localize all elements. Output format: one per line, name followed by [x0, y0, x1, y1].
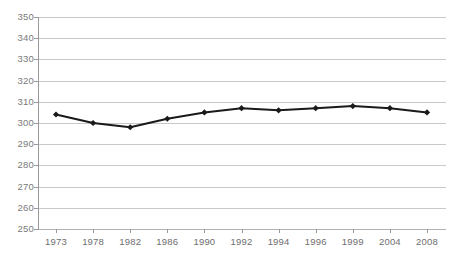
y-axis-tick-mark — [34, 81, 38, 82]
x-axis-tick-mark — [93, 229, 94, 233]
data-point-marker — [127, 124, 133, 130]
x-axis-tick-mark — [242, 229, 243, 233]
y-axis-tick-mark — [34, 144, 38, 145]
y-axis-tick-mark — [34, 17, 38, 18]
data-point-marker — [350, 103, 356, 109]
data-point-marker — [424, 109, 430, 115]
y-axis-tick-mark — [34, 165, 38, 166]
y-axis-tick-label: 330 — [0, 54, 34, 64]
y-axis-tick-mark — [34, 229, 38, 230]
x-axis-tick-mark — [167, 229, 168, 233]
data-point-marker — [164, 116, 170, 122]
data-point-marker — [387, 105, 393, 111]
y-axis-tick-mark — [34, 38, 38, 39]
x-axis-tick-mark — [130, 229, 131, 233]
x-axis-tick-mark — [279, 229, 280, 233]
y-axis-tick-label: 250 — [0, 224, 34, 234]
x-axis-tick-mark — [353, 229, 354, 233]
y-axis-tick-label: 260 — [0, 203, 34, 213]
data-point-marker — [53, 111, 59, 117]
data-point-marker — [90, 120, 96, 126]
y-axis-tick-mark — [34, 208, 38, 209]
y-axis-tick-label: 320 — [0, 76, 34, 86]
y-axis-tick-mark — [34, 123, 38, 124]
line-chart: 3503403303203103002902802702602501973197… — [0, 0, 455, 265]
y-axis-tick-mark — [34, 102, 38, 103]
y-axis-tick-label: 350 — [0, 12, 34, 22]
y-axis-tick-label: 270 — [0, 182, 34, 192]
y-axis-tick-label: 290 — [0, 139, 34, 149]
y-axis-tick-label: 280 — [0, 160, 34, 170]
y-axis-tick-mark — [34, 59, 38, 60]
data-point-marker — [238, 105, 244, 111]
x-axis-tick-mark — [427, 229, 428, 233]
x-axis-tick-mark — [316, 229, 317, 233]
data-point-marker — [276, 107, 282, 113]
x-axis-tick-mark — [204, 229, 205, 233]
data-point-marker — [313, 105, 319, 111]
series-layer — [0, 0, 455, 265]
data-point-marker — [201, 109, 207, 115]
y-axis-tick-label: 340 — [0, 33, 34, 43]
x-axis-tick-label: 2008 — [397, 236, 455, 247]
x-axis-tick-mark — [56, 229, 57, 233]
x-axis-tick-mark — [390, 229, 391, 233]
y-axis-tick-label: 300 — [0, 118, 34, 128]
y-axis-tick-mark — [34, 187, 38, 188]
y-axis-tick-label: 310 — [0, 97, 34, 107]
